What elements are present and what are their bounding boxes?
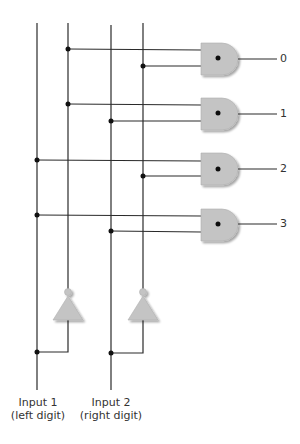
decoder-circuit: [0, 0, 300, 444]
inverter-2: [128, 289, 158, 321]
and-gate-3: [201, 209, 238, 241]
input-1-name: Input 1: [6, 396, 70, 409]
output-label-2: 2: [280, 162, 287, 175]
gate-input-wires: [37, 49, 201, 232]
output-wires: [238, 59, 277, 224]
and-gate-2: [201, 153, 238, 185]
output-label-3: 3: [280, 217, 287, 230]
output-label-1: 1: [280, 107, 287, 120]
and-gate-1: [201, 98, 238, 130]
and-gate-0: [201, 43, 238, 75]
not-input-1-wire: [37, 23, 68, 352]
input-1-desc: (left digit): [6, 409, 70, 422]
inverter-1: [53, 289, 83, 321]
input-2-desc: (right digit): [76, 409, 146, 422]
input-2-label: Input 2 (right digit): [76, 396, 146, 422]
output-label-0: 0: [280, 52, 287, 65]
junction-dots: [35, 47, 146, 356]
input-2-name: Input 2: [76, 396, 146, 409]
input-1-label: Input 1 (left digit): [6, 396, 70, 422]
